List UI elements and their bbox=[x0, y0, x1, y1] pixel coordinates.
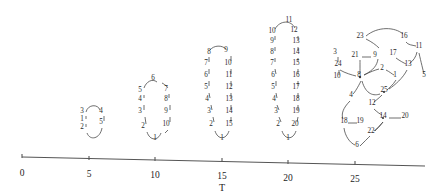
cluster-at-5: 31245 bbox=[80, 107, 103, 131]
node-label: 14 bbox=[292, 48, 300, 56]
node-label: 4 bbox=[205, 95, 209, 103]
cluster-at-15: 897106115124133142151 bbox=[204, 46, 233, 142]
node-label: 15 bbox=[225, 120, 233, 128]
node-label: 3 bbox=[333, 48, 337, 56]
node-label: 24 bbox=[334, 60, 342, 68]
node-label: 1 bbox=[80, 115, 84, 123]
node-label: 1 bbox=[153, 134, 157, 142]
node-label: 8 bbox=[357, 71, 361, 79]
node-label: 9 bbox=[270, 37, 274, 45]
scatter-sequence-figure: 0 5 10 15 20 25 T 3124565432789101897106… bbox=[0, 0, 442, 192]
node-label: 11 bbox=[286, 16, 293, 24]
node-label: 1 bbox=[393, 71, 397, 79]
node-label: 14 bbox=[225, 107, 233, 115]
node-label: 17 bbox=[292, 83, 300, 91]
axis-title: T bbox=[219, 182, 225, 192]
node-label: 5 bbox=[204, 83, 208, 91]
node-label: 19 bbox=[356, 117, 364, 125]
node-label: 11 bbox=[226, 71, 233, 79]
tick-label: 15 bbox=[217, 171, 227, 181]
node-label: 23 bbox=[356, 32, 364, 40]
node-label: 13 bbox=[225, 95, 233, 103]
node-label: 5 bbox=[99, 118, 103, 126]
node-label: 5 bbox=[271, 83, 275, 91]
tick-label: 10 bbox=[150, 170, 160, 180]
node-label: 6 bbox=[151, 74, 155, 82]
tick-label: 25 bbox=[350, 174, 360, 184]
node-label: 10 bbox=[162, 120, 170, 128]
node-label: 10 bbox=[268, 27, 276, 35]
node-label: 2 bbox=[141, 122, 145, 130]
node-label: 13 bbox=[292, 37, 300, 45]
node-label: 4 bbox=[138, 95, 142, 103]
tick-label: 5 bbox=[87, 169, 92, 179]
node-label: 25 bbox=[380, 86, 388, 94]
node-label: 20 bbox=[291, 120, 299, 128]
tick-label: 0 bbox=[20, 168, 25, 178]
figure-canvas: 0 5 10 15 20 25 T 3124565432789101897106… bbox=[0, 0, 442, 192]
node-label: 2 bbox=[209, 120, 213, 128]
node-label-layer: 3124565432789101897106115124133142151111… bbox=[80, 16, 426, 149]
node-label: 3 bbox=[207, 107, 211, 115]
node-label: 6 bbox=[271, 71, 275, 79]
node-label: 20 bbox=[401, 112, 409, 120]
node-label: 17 bbox=[389, 49, 397, 57]
node-label: 6 bbox=[204, 71, 208, 79]
node-label: 6 bbox=[355, 141, 359, 149]
node-label: 9 bbox=[224, 46, 228, 54]
cluster-at-25: 23161117135321924210812541220141819226 bbox=[333, 32, 426, 149]
node-label: 5 bbox=[422, 71, 426, 79]
node-label: 7 bbox=[270, 59, 274, 67]
node-label: 4 bbox=[99, 107, 103, 115]
node-label: 4 bbox=[349, 91, 353, 99]
tick-label: 20 bbox=[283, 173, 293, 183]
node-label: 2 bbox=[380, 64, 384, 72]
node-label: 1 bbox=[220, 134, 224, 142]
node-label: 12 bbox=[290, 26, 298, 34]
node-label: 7 bbox=[164, 85, 168, 93]
node-label: 8 bbox=[270, 48, 274, 56]
node-label: 7 bbox=[204, 59, 208, 67]
node-label: 3 bbox=[80, 107, 84, 115]
node-label: 16 bbox=[400, 32, 408, 40]
node-label: 4 bbox=[272, 95, 276, 103]
node-label: 2 bbox=[276, 120, 280, 128]
cluster-at-20: 1110129138147156165174183192201 bbox=[268, 16, 300, 142]
node-label: 3 bbox=[274, 107, 278, 115]
node-label: 9 bbox=[373, 51, 377, 59]
node-label: 9 bbox=[164, 107, 168, 115]
node-label: 21 bbox=[351, 51, 359, 59]
node-label: 15 bbox=[292, 59, 300, 67]
node-label: 10 bbox=[333, 72, 341, 80]
cluster-at-10: 65432789101 bbox=[138, 74, 170, 142]
node-label: 16 bbox=[292, 71, 300, 79]
node-label: 12 bbox=[368, 99, 376, 107]
node-label: 11 bbox=[416, 42, 423, 50]
node-label: 10 bbox=[224, 59, 232, 67]
node-label: 8 bbox=[164, 95, 168, 103]
node-label: 2 bbox=[80, 123, 84, 131]
node-label: 18 bbox=[292, 95, 300, 103]
axis-line bbox=[22, 157, 425, 166]
axis-tick-labels: 0 5 10 15 20 25 T bbox=[20, 168, 360, 192]
node-label: 3 bbox=[138, 107, 142, 115]
node-label: 1 bbox=[286, 134, 290, 142]
axis-group bbox=[22, 154, 425, 166]
node-label: 8 bbox=[207, 48, 211, 56]
node-label: 14 bbox=[379, 112, 387, 120]
node-label: 18 bbox=[340, 117, 348, 125]
node-label: 12 bbox=[225, 83, 233, 91]
node-label: 19 bbox=[292, 107, 300, 115]
node-label: 22 bbox=[367, 127, 375, 135]
node-label: 5 bbox=[138, 86, 142, 94]
node-label: 13 bbox=[404, 60, 412, 68]
